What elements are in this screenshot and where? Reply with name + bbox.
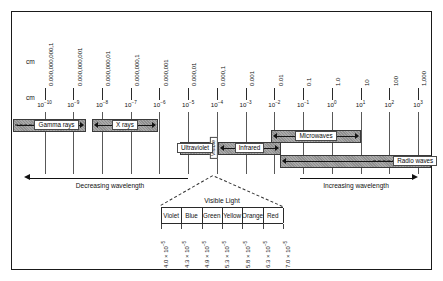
band-label: Ultraviolet	[177, 143, 213, 153]
decimal-label-6: 0.000,1	[219, 66, 226, 86]
exponent-label-3: 10−7	[125, 101, 137, 108]
visible-value-3: 5.3 × 10−5	[224, 241, 230, 268]
upper-tick-0	[45, 88, 46, 100]
exponent-label-2: 10−8	[96, 101, 108, 108]
unit-label-bottom: cm	[26, 94, 35, 101]
upper-tick-6	[217, 88, 218, 100]
visible-color-blue: Blue	[185, 212, 198, 219]
upper-tick-10	[332, 88, 333, 100]
visible-value-tick-2	[202, 224, 203, 229]
exponent-label-11: 101	[356, 101, 365, 108]
exponent-label-4: 10−6	[153, 101, 165, 108]
visible-color-green: Green	[203, 212, 221, 219]
decimal-label-3: 0.000,000,1	[133, 54, 140, 86]
visible-color-yellow: Yellow	[223, 212, 241, 219]
visible-value-5: 6.3 × 10−5	[265, 241, 271, 268]
decimal-label-11: 10	[363, 79, 370, 86]
upper-tick-9	[303, 88, 304, 100]
visible-value-tick-6	[283, 224, 284, 229]
visible-value-tick-4	[242, 224, 243, 229]
decimal-label-7: 0.001	[248, 71, 255, 86]
visible-boundary-1	[181, 208, 182, 223]
exponent-label-5: 10−5	[182, 101, 194, 108]
visible-value-tick-3	[222, 224, 223, 229]
upper-tick-7	[246, 88, 247, 100]
visible-value-6: 7.0 × 10−5	[285, 241, 291, 268]
decimal-label-5: 0.000,01	[190, 63, 197, 86]
band-arrow-left-icon	[273, 133, 277, 139]
upper-tick-12	[389, 88, 390, 100]
electromagnetic-spectrum-figure: cmcm0.000,000,000,110−100.000,000,00110−…	[0, 0, 443, 281]
band-x-rays: X rays	[92, 119, 158, 132]
visible-color-red: Red	[267, 212, 279, 219]
band-microwaves: Microwaves	[271, 130, 360, 143]
band-arrow-right-icon	[355, 133, 359, 139]
band-arrow-right-icon	[80, 122, 84, 128]
decimal-label-9: 0.1	[305, 78, 312, 86]
upper-tick-13	[418, 88, 419, 100]
band-infrared: Infrared	[218, 142, 280, 155]
upper-tick-5	[188, 88, 189, 100]
exponent-label-10: 100	[327, 101, 336, 108]
decimal-label-0: 0.000,000,000,1	[47, 43, 54, 86]
exponent-label-1: 10−9	[67, 101, 79, 108]
band-label: Radio waves	[393, 156, 437, 166]
band-arrow-left-icon	[94, 122, 98, 128]
band-ultraviolet: Ultraviolet	[180, 142, 211, 155]
decimal-label-4: 0.000,001	[162, 59, 169, 86]
visible-value-1: 4.3 × 10−5	[184, 241, 190, 268]
band-arrow-right-icon	[152, 122, 156, 128]
decimal-label-8: 0.01	[277, 74, 284, 86]
band-arrow-right-icon	[275, 145, 279, 151]
exponent-label-12: 102	[385, 101, 394, 108]
upper-tick-11	[361, 88, 362, 100]
visible-boundary-6	[283, 208, 284, 223]
band-label: Microwaves	[295, 131, 336, 141]
visible-value-2: 4.9 × 10−5	[204, 241, 210, 268]
upper-tick-1	[73, 88, 74, 100]
band-label: X rays	[112, 120, 138, 130]
band-radio-waves: Radio waves	[280, 155, 431, 168]
band-gamma-rays: Gamma rays	[13, 119, 86, 132]
band-label: Infrared	[235, 143, 265, 153]
visible-color-orange: Orange	[242, 212, 263, 219]
exponent-label-8: 10−2	[268, 101, 280, 108]
visible-boundary-0	[161, 208, 162, 223]
exponent-label-7: 10−3	[240, 101, 252, 108]
exponent-label-9: 10−1	[297, 101, 309, 108]
decimal-label-1: 0.000,000,001	[76, 48, 83, 86]
gridline-4	[159, 112, 160, 174]
unit-label-top: cm	[26, 58, 35, 65]
decreasing-wavelength-label: Decreasing wavelength	[76, 182, 145, 189]
band-label: Gamma rays	[34, 120, 78, 130]
decimal-label-12: 100	[392, 76, 399, 86]
visible-value-tick-5	[263, 224, 264, 229]
upper-tick-8	[274, 88, 275, 100]
visible-value-tick-0	[161, 224, 162, 229]
upper-tick-2	[102, 88, 103, 100]
visible-value-tick-1	[181, 224, 182, 229]
visible-light-title: Visible Light	[204, 197, 239, 204]
increasing-wavelength-label: Increasing wavelength	[323, 182, 389, 189]
exponent-label-13: 103	[413, 101, 422, 108]
band-arrow-left-icon	[220, 145, 224, 151]
visible-value-4: 5.8 × 10−5	[245, 241, 251, 268]
upper-tick-4	[159, 88, 160, 100]
visible-value-0: 4.0 × 10−5	[163, 241, 169, 268]
exponent-label-6: 10−4	[211, 101, 223, 108]
band-arrow-left-icon	[282, 158, 286, 164]
exponent-label-0: 10−10	[37, 101, 52, 108]
decimal-label-10: 1.0	[334, 78, 341, 86]
decimal-label-2: 0.000,000,01	[104, 51, 111, 86]
upper-tick-3	[131, 88, 132, 100]
decimal-label-13: 1,000	[420, 71, 427, 86]
visible-color-violet: Violet	[163, 212, 179, 219]
